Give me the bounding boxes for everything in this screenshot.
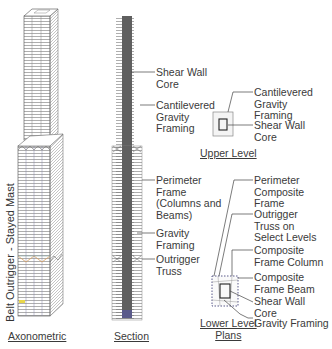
upper-level-caption: Upper Level — [200, 147, 257, 159]
section-label-shear-wall-core: Shear Wall Core — [156, 67, 207, 90]
section-label-cantilevered-gravity: Cantilevered Gravity Framing — [156, 100, 215, 135]
section-label-perimeter-frame: Perimeter Frame (Columns and Beams) — [156, 175, 221, 221]
upper-level-plan — [213, 112, 233, 136]
section-caption: Section — [114, 330, 149, 342]
lower-label-composite-column: Composite Frame Column — [254, 245, 323, 268]
section-label-gravity-framing: Gravity Framing — [156, 228, 195, 251]
lower-label-perimeter-composite: Perimeter Composite Frame — [254, 175, 304, 210]
axonometric-caption: Axonometric — [8, 330, 66, 342]
lower-label-gravity-framing: Gravity Framing — [254, 318, 329, 330]
lower-label-outrigger-truss-select: Outrigger Truss on Select Levels — [254, 209, 316, 244]
upper-label-shear-wall-core: Shear Wall Core — [254, 120, 305, 143]
upper-label-cantilevered-gravity: Cantilevered Gravity Framing — [254, 87, 313, 122]
lower-level-caption: Lower Level Plans — [200, 318, 257, 341]
section-drawing — [112, 16, 142, 320]
lower-label-shear-wall-core: Shear Wall Core — [254, 296, 305, 319]
lower-label-composite-beam: Composite Frame Beam — [254, 272, 315, 295]
axonometric-vertical-label: Belt Outrigger - Stayed Mast — [4, 183, 16, 322]
axonometric-tower — [18, 9, 63, 316]
lower-level-plan — [212, 276, 238, 306]
section-label-outrigger-truss: Outrigger Truss — [156, 254, 200, 277]
